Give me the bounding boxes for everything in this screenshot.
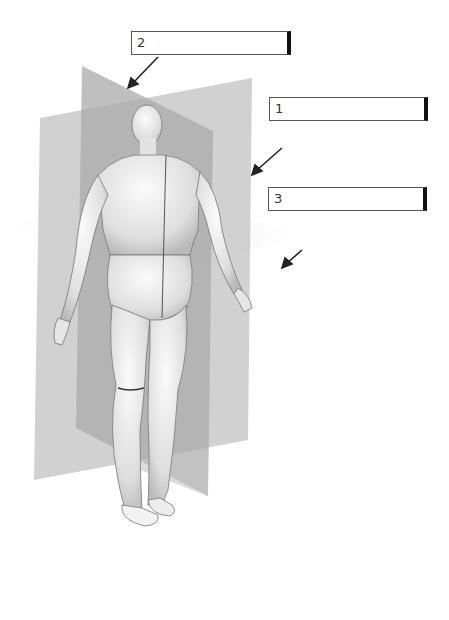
label-input-1[interactable] — [290, 100, 420, 120]
label-input-3[interactable] — [289, 190, 419, 210]
label-input-2[interactable] — [152, 34, 283, 54]
label-number-3: 3 — [274, 191, 282, 206]
arrow-1 — [252, 148, 282, 175]
label-box-2: 2 — [131, 31, 291, 55]
label-number-1: 1 — [275, 101, 283, 116]
planes-figure — [0, 0, 449, 620]
label-box-1: 1 — [269, 97, 428, 121]
label-number-2: 2 — [137, 35, 145, 50]
label-box-3: 3 — [268, 187, 427, 211]
arrow-2 — [128, 57, 158, 88]
anatomy-diagram: 2 1 3 — [0, 0, 449, 620]
arrow-3 — [282, 250, 302, 268]
